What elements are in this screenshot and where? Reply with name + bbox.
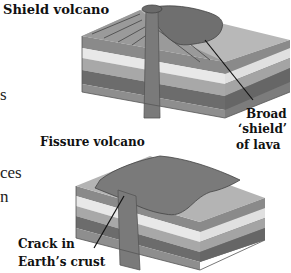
fissure-callout-line2: Earth’s crust <box>18 256 105 268</box>
cropped-text-fragment-1: s <box>0 86 7 103</box>
shield-callout-line2: ‘shield’ <box>238 123 287 135</box>
shield-callout-line3: of lava <box>236 139 280 151</box>
fissure-callout-line1: Crack in <box>18 238 75 250</box>
shield-volcano-illustration <box>82 5 290 118</box>
fissure-volcano-title: Fissure volcano <box>40 136 145 148</box>
volcano-diagram: Shield volcano Broad ‘shield’ of lava Fi… <box>0 0 291 273</box>
cropped-text-fragment-2: ces <box>0 164 22 181</box>
shield-volcano-title: Shield volcano <box>3 3 109 16</box>
fissure-volcano-illustration <box>76 156 265 270</box>
shield-callout-line1: Broad <box>246 108 287 120</box>
cropped-text-fragment-3: n <box>0 188 9 205</box>
